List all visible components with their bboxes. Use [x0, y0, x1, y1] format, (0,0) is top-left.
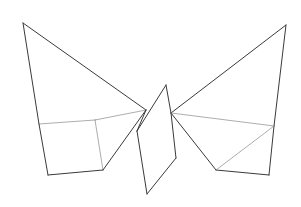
drawing-canvas: 3D Wireframe Line Drawing Black-on-white… — [0, 0, 301, 207]
wireframe-figure: 3D Wireframe Line Drawing Black-on-white… — [0, 0, 301, 207]
canvas-background — [0, 0, 301, 207]
